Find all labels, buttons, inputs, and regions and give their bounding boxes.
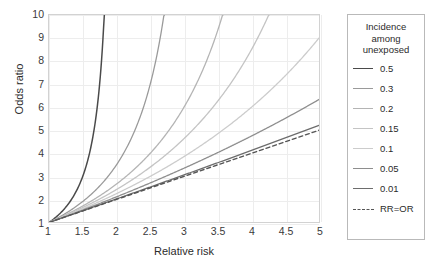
legend-entry-0.5[interactable]: 0.5 (348, 59, 424, 79)
curve-p0-0.2 (49, 15, 223, 222)
legend-line-swatch-icon (353, 184, 373, 194)
legend-entry-label: 0.2 (373, 104, 393, 114)
legend-entries: 0.50.30.20.150.10.050.01RR=OR (348, 59, 424, 219)
legend-title: Incidenceamongunexposed (348, 20, 424, 59)
legend-entry-0.3[interactable]: 0.3 (348, 79, 424, 99)
y-axis-tick-label: 4 (4, 148, 44, 159)
x-axis-tick-label: 5 (300, 226, 340, 237)
legend-entry-0.01[interactable]: 0.01 (348, 179, 424, 199)
legend-line-swatch-icon (353, 104, 373, 114)
legend-entry-label: 0.15 (373, 124, 399, 134)
legend-line-swatch-icon (353, 124, 373, 134)
legend: Incidenceamongunexposed 0.50.30.20.150.1… (347, 14, 425, 240)
legend-title-line: among (350, 33, 422, 45)
y-axis-tick-label: 3 (4, 172, 44, 183)
legend-entry-label: 0.1 (373, 144, 393, 154)
legend-entry-0.1[interactable]: 0.1 (348, 139, 424, 159)
legend-line-swatch-icon (353, 84, 373, 94)
legend-entry-label: 0.01 (373, 184, 399, 194)
legend-title-line: unexposed (350, 44, 422, 56)
curve-p0-0.1 (49, 38, 319, 222)
y-axis-title: Odds ratio (13, 29, 25, 149)
legend-line-swatch-icon (353, 164, 373, 174)
legend-entry-label: 0.3 (373, 84, 393, 94)
legend-line-swatch-icon (353, 204, 373, 214)
curve-p0-0.5 (49, 15, 104, 222)
legend-entry-0.2[interactable]: 0.2 (348, 99, 424, 119)
legend-line-swatch-icon (353, 64, 373, 74)
y-axis-tick-label: 2 (4, 195, 44, 206)
legend-entry-label: RR=OR (373, 204, 414, 214)
curve-p0-RR-eq-OR (49, 130, 319, 222)
legend-line-swatch-icon (353, 144, 373, 154)
legend-entry-label: 0.05 (373, 164, 399, 174)
legend-title-line: Incidence (350, 21, 422, 33)
legend-entry-label: 0.5 (373, 64, 393, 74)
curve-series-group (49, 15, 319, 222)
legend-entry-RR-eq-OR[interactable]: RR=OR (348, 199, 424, 219)
chart-figure: 12345678910 Odds ratio 11.522.533.544.55… (0, 0, 431, 268)
grid-line-vertical (321, 15, 322, 222)
plot-area (48, 14, 320, 223)
legend-entry-0.15[interactable]: 0.15 (348, 119, 424, 139)
y-axis-tick-label: 10 (4, 9, 44, 20)
x-axis-title: Relative risk (48, 245, 320, 257)
legend-entry-0.05[interactable]: 0.05 (348, 159, 424, 179)
